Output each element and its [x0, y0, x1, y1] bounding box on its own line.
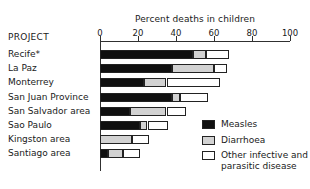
project-row-label: San Juan Province [8, 92, 89, 102]
legend-swatch [202, 120, 215, 129]
project-row-label: San Salvador area [8, 106, 90, 116]
legend-label: Other infective and parasitic disease [221, 150, 308, 171]
bar-segment [100, 64, 172, 73]
project-row-label: Sao Paulo [8, 120, 52, 130]
x-axis-tick-mark [138, 36, 139, 41]
bar-segment [172, 64, 214, 73]
bar-segment [193, 50, 206, 59]
x-axis-line [100, 41, 290, 42]
project-row-label: Monterrey [8, 77, 54, 87]
legend-label: Diarrhoea [221, 135, 265, 146]
chart-legend: MeaslesDiarrhoeaOther infective and para… [202, 119, 308, 176]
bar-segment [100, 107, 130, 116]
bar-segment [132, 135, 149, 144]
project-row-label: Recife* [8, 49, 40, 59]
bar-segment [100, 78, 144, 87]
bar-segment [148, 121, 169, 130]
x-axis-tick-mark [176, 36, 177, 41]
bar-segment [123, 149, 140, 158]
bar-segment [214, 64, 227, 73]
project-row-label: Santiago area [8, 148, 71, 158]
bar-segment [180, 93, 209, 102]
bar-segment [100, 135, 132, 144]
project-row-label: Kingston area [8, 134, 70, 144]
bar-segment [100, 50, 193, 59]
bar-segment [130, 107, 166, 116]
x-axis-tick-mark [252, 36, 253, 41]
bar-segment [144, 78, 167, 87]
bar-segment [167, 78, 220, 87]
stacked-bar-chart: Percent deaths in children 020406080100 … [0, 0, 310, 189]
legend-swatch [202, 151, 215, 160]
bar-segment [108, 149, 123, 158]
legend-item: Diarrhoea [202, 135, 308, 146]
bar-segment [100, 93, 172, 102]
legend-label: Measles [221, 119, 257, 130]
legend-swatch [202, 136, 215, 145]
legend-item: Measles [202, 119, 308, 130]
x-axis-tick-mark [214, 36, 215, 41]
x-axis-tick-mark [290, 36, 291, 41]
project-row-label: La Paz [8, 63, 37, 73]
bar-segment [167, 107, 186, 116]
project-column-header: PROJECT [8, 32, 49, 42]
legend-item: Other infective and parasitic disease [202, 150, 308, 171]
bar-segment [140, 121, 148, 130]
bar-segment [206, 50, 229, 59]
bar-segment [100, 149, 108, 158]
x-axis-title: Percent deaths in children [100, 14, 290, 24]
bar-segment [172, 93, 180, 102]
bar-segment [100, 121, 140, 130]
